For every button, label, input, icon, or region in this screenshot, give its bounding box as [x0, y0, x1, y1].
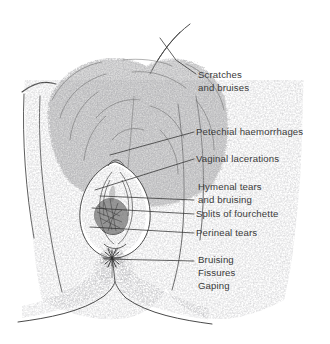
label-line: Gaping: [198, 280, 230, 291]
label-petechial-haemorrhages: Petechial haemorrhages: [196, 126, 303, 137]
label-line: Hymenal tears: [198, 181, 262, 192]
label-line: Splits of fourchette: [196, 208, 278, 219]
label-line: and bruising: [198, 194, 252, 205]
label-splits-of-fourchette: Splits of fourchette: [196, 208, 278, 219]
label-line: Bruising: [198, 254, 234, 265]
anatomical-figure: Scratchesand bruisesPetechial haemorrhag…: [0, 0, 330, 344]
label-vaginal-lacerations: Vaginal lacerations: [196, 153, 279, 164]
label-perineal-tears: Perineal tears: [196, 227, 257, 238]
label-line: Fissures: [198, 267, 236, 278]
label-line: Vaginal lacerations: [196, 153, 279, 164]
anus: [99, 247, 125, 269]
label-line: Perineal tears: [196, 227, 257, 238]
label-line: Petechial haemorrhages: [196, 126, 303, 137]
label-line: Scratches: [198, 69, 242, 80]
label-line: and bruises: [198, 82, 249, 93]
